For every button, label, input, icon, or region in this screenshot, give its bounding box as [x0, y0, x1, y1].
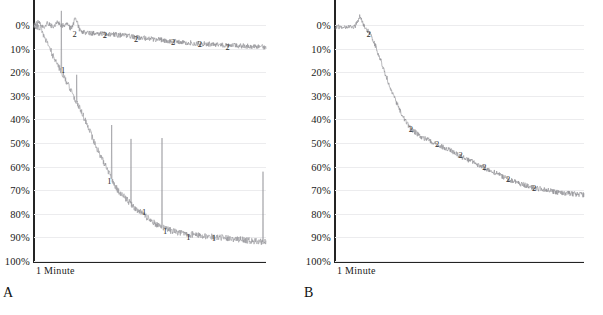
y-tick: 60%	[10, 161, 30, 172]
panel-b-x-axis-label: 1 Minute	[337, 265, 376, 276]
y-tick: 90%	[311, 232, 331, 243]
panel-a-y-axis-labels: 0% 10% 20% 30% 40% 50% 60% 70% 80% 90% 1…	[0, 0, 32, 262]
panel-b-y-axis-labels: 0% 10% 20% 30% 40% 50% 60% 70% 80% 90% 1…	[301, 0, 333, 262]
trace-line	[335, 15, 584, 198]
y-tick: 0%	[16, 20, 30, 31]
panel-a-x-axis-label: 1 Minute	[36, 265, 75, 276]
panel-b: 0% 10% 20% 30% 40% 50% 60% 70% 80% 90% 1…	[301, 0, 603, 315]
y-tick: 20%	[10, 67, 30, 78]
y-tick: 0%	[317, 20, 331, 31]
panel-a: 0% 10% 20% 30% 40% 50% 60% 70% 80% 90% 1…	[0, 0, 302, 315]
y-tick: 100%	[5, 256, 30, 267]
y-tick: 50%	[10, 138, 30, 149]
figure-container: 0% 10% 20% 30% 40% 50% 60% 70% 80% 90% 1…	[0, 0, 603, 315]
panel-a-traces	[34, 0, 266, 262]
trace-line	[34, 18, 266, 50]
y-tick: 40%	[10, 114, 30, 125]
panel-b-letter: B	[304, 285, 313, 301]
y-tick: 10%	[10, 43, 30, 54]
panel-a-letter: A	[3, 285, 13, 301]
y-tick: 40%	[311, 114, 331, 125]
y-tick: 80%	[311, 208, 331, 219]
panel-b-plot-area: 2222222	[335, 0, 584, 262]
y-tick: 60%	[311, 161, 331, 172]
y-tick: 50%	[311, 138, 331, 149]
y-tick: 70%	[311, 185, 331, 196]
y-tick: 90%	[10, 232, 30, 243]
panel-a-plot-area: 222222111111	[34, 0, 266, 262]
y-tick: 10%	[311, 43, 331, 54]
y-tick: 80%	[10, 208, 30, 219]
y-tick: 30%	[10, 90, 30, 101]
y-tick: 20%	[311, 67, 331, 78]
panel-b-traces	[335, 0, 584, 262]
y-tick: 100%	[306, 256, 331, 267]
y-tick: 70%	[10, 185, 30, 196]
y-tick: 30%	[311, 90, 331, 101]
